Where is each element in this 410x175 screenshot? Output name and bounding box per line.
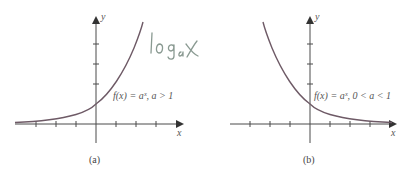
exponential-graphs-figure: y x f(x) = aˣ, a > 1 (a) [0,0,410,175]
panel-a: y x f(x) = aˣ, a > 1 (a) [15,11,198,166]
y-axis-label: y [314,11,320,22]
function-label: f(x) = aˣ, a > 1 [113,90,173,102]
y-axis-label: y [100,11,106,22]
x-axis-label: x [390,127,396,138]
caption-b: (b) [303,154,315,166]
panel-b: y x f(x) = aˣ, 0 < a < 1 (b) [230,11,396,166]
caption-a: (a) [89,154,100,166]
function-label: f(x) = aˣ, 0 < a < 1 [314,90,391,102]
decay-curve [263,22,392,123]
growth-curve [15,22,143,123]
handwritten-log-annotation [151,33,198,59]
x-axis-label: x [176,127,182,138]
